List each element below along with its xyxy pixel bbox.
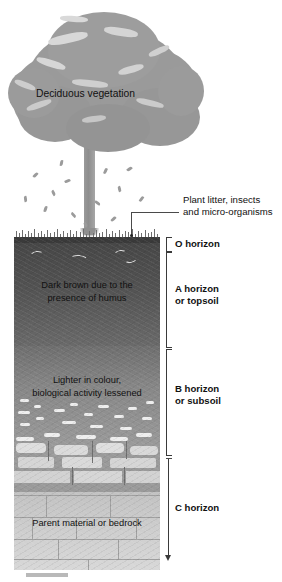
- bedrock-joint: [14, 559, 160, 560]
- falling-leaf: [60, 160, 64, 166]
- bedrock-joint: [14, 539, 160, 540]
- c-horizon-bracket-tick: [166, 458, 172, 459]
- a-horizon-description: Dark brown due to the presence of humus: [14, 279, 160, 304]
- a-horizon-bracket: [166, 252, 172, 348]
- falling-leaf: [51, 190, 57, 197]
- c-horizon-arrow-line: [168, 458, 169, 556]
- rock-block: [96, 443, 124, 453]
- rock-seam: [72, 467, 73, 485]
- rock-fragment: [34, 405, 41, 408]
- rock-seam: [92, 441, 93, 463]
- rock-block: [54, 445, 88, 455]
- falling-leaf: [110, 216, 116, 222]
- rock-fragment: [128, 407, 137, 410]
- rock-fragment: [36, 417, 44, 420]
- bedrock-joint: [118, 539, 119, 559]
- rock-seam: [48, 441, 49, 461]
- rock-fragment: [18, 411, 30, 414]
- b-horizon-label-line1: B horizon: [175, 383, 221, 395]
- b-horizon-description-line2: biological activity lessened: [14, 387, 160, 400]
- rock-fragment: [70, 403, 78, 406]
- b-horizon-description-line1: Lighter in colour,: [14, 374, 160, 387]
- o-horizon-label: O horizon: [175, 238, 220, 250]
- falling-leaf: [70, 212, 76, 218]
- soil-profile-diagram: Deciduous vegetation: [0, 0, 282, 582]
- rock-fragment: [120, 427, 132, 430]
- rock-fragment: [90, 425, 103, 428]
- rock-block: [130, 446, 158, 455]
- a-horizon-label-line1: A horizon: [175, 283, 219, 295]
- falling-leaf: [126, 166, 133, 172]
- canopy-label: Deciduous vegetation: [36, 88, 135, 99]
- falling-leaf: [23, 196, 27, 202]
- b-horizon-label-line2: or subsoil: [175, 395, 221, 407]
- b-horizon-description: Lighter in colour, biological activity l…: [14, 374, 160, 399]
- o-horizon-bracket: [166, 237, 172, 252]
- bedrock-joint: [88, 559, 89, 570]
- rock-block: [110, 458, 156, 468]
- plant-litter-leader-vertical: [131, 212, 132, 236]
- rock-fragment: [54, 409, 65, 412]
- a-horizon-label-line2: or topsoil: [175, 295, 219, 307]
- rock-block: [62, 457, 102, 468]
- rock-fragment: [142, 417, 152, 420]
- b-horizon-label: B horizon or subsoil: [175, 383, 221, 408]
- rock-fragment: [98, 405, 109, 408]
- rock-fragment: [146, 401, 154, 404]
- c-horizon-description-text: Parent material or bedrock: [14, 517, 160, 530]
- rock-fragment: [20, 399, 29, 402]
- rock-fragment: [114, 415, 124, 418]
- rock-block: [16, 443, 46, 453]
- falling-leaf: [64, 178, 71, 183]
- rock-fragment: [44, 433, 60, 437]
- c-horizon-label: C horizon: [175, 502, 219, 514]
- plant-litter-leader-dot: [130, 234, 133, 237]
- plant-litter-label: Plant litter, insects and micro-organism…: [183, 194, 273, 219]
- c-horizon-arrowhead-icon: [165, 555, 171, 561]
- rock-fragment: [84, 413, 93, 416]
- falling-leaf: [94, 200, 101, 206]
- a-horizon-description-line1: Dark brown due to the: [14, 279, 160, 292]
- a-horizon-label: A horizon or topsoil: [175, 283, 219, 308]
- rock-fragment: [136, 433, 152, 437]
- c-horizon-description: Parent material or bedrock: [14, 517, 160, 530]
- falling-leaf: [43, 206, 47, 213]
- rock-block: [126, 471, 160, 483]
- a-horizon-description-line2: presence of humus: [14, 292, 160, 305]
- b-horizon-bracket: [166, 349, 172, 456]
- tree-canopy: [8, 8, 203, 148]
- falling-leaf: [117, 186, 122, 193]
- rock-fragment: [76, 435, 96, 439]
- falling-leaf: [139, 196, 145, 203]
- falling-leaf: [32, 172, 38, 179]
- clipped-caption-strip: [26, 573, 68, 577]
- rock-seam: [124, 467, 125, 485]
- bedrock-joint: [14, 495, 160, 496]
- rock-fragment: [20, 423, 30, 426]
- rock-fragment: [16, 437, 34, 441]
- rock-seam: [126, 441, 127, 459]
- plant-litter-label-line2: and micro-organisms: [183, 206, 273, 218]
- bedrock-joint: [46, 495, 47, 517]
- plant-litter-leader-horizontal: [131, 212, 179, 213]
- rock-block: [14, 471, 70, 483]
- falling-leaf: [103, 168, 108, 175]
- plant-litter-label-line1: Plant litter, insects: [183, 194, 273, 206]
- bedrock-joint: [58, 539, 59, 559]
- rock-fragment: [62, 421, 76, 424]
- bedrock-joint: [110, 495, 111, 517]
- rock-block: [74, 471, 122, 483]
